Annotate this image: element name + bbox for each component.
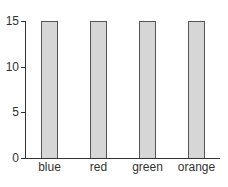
- x-label-green: green: [123, 160, 173, 174]
- y-axis-line: [25, 21, 26, 158]
- y-tick: [21, 112, 26, 113]
- y-tick: [21, 158, 26, 159]
- x-axis-line: [25, 158, 220, 159]
- bar-orange: [188, 21, 205, 158]
- y-tick: [21, 21, 26, 22]
- y-tick-label: 15: [0, 15, 19, 27]
- y-tick-label: 0: [0, 152, 19, 164]
- bar-blue: [41, 21, 58, 158]
- x-label-red: red: [74, 160, 124, 174]
- x-label-blue: blue: [25, 160, 75, 174]
- bar-green: [139, 21, 156, 158]
- y-tick-label: 5: [0, 106, 19, 118]
- y-tick-label: 10: [0, 61, 19, 73]
- bar-red: [90, 21, 107, 158]
- x-label-orange: orange: [172, 160, 222, 174]
- y-tick: [21, 67, 26, 68]
- bar-chart: 151050 blueredgreenorange: [0, 0, 228, 187]
